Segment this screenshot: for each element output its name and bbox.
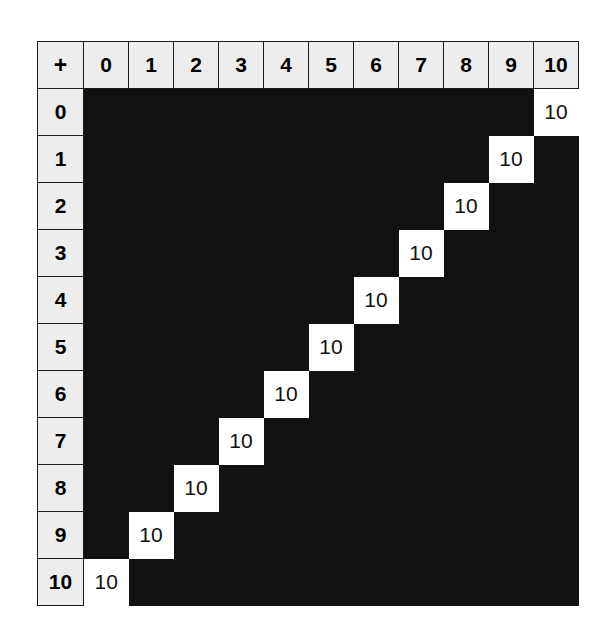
- cell-r0-c1[interactable]: [129, 89, 174, 136]
- cell-r2-c4[interactable]: [264, 183, 309, 230]
- cell-r2-c3[interactable]: [219, 183, 264, 230]
- cell-r9-c9[interactable]: [489, 512, 534, 559]
- cell-r4-c9[interactable]: [489, 277, 534, 324]
- cell-r2-c10[interactable]: [534, 183, 579, 230]
- cell-r7-c3[interactable]: 10: [219, 418, 264, 465]
- cell-r1-c6[interactable]: [354, 136, 399, 183]
- cell-r0-c8[interactable]: [444, 89, 489, 136]
- cell-r9-c10[interactable]: [534, 512, 579, 559]
- cell-r0-c3[interactable]: [219, 89, 264, 136]
- cell-r8-c6[interactable]: [354, 465, 399, 512]
- cell-r10-c4[interactable]: [264, 559, 309, 606]
- cell-r1-c8[interactable]: [444, 136, 489, 183]
- cell-r10-c2[interactable]: [174, 559, 219, 606]
- cell-r6-c7[interactable]: [399, 371, 444, 418]
- cell-r8-c0[interactable]: [84, 465, 129, 512]
- cell-r1-c0[interactable]: [84, 136, 129, 183]
- cell-r9-c3[interactable]: [219, 512, 264, 559]
- cell-r1-c9[interactable]: 10: [489, 136, 534, 183]
- cell-r0-c10[interactable]: 10: [534, 89, 579, 136]
- cell-r10-c7[interactable]: [399, 559, 444, 606]
- cell-r1-c7[interactable]: [399, 136, 444, 183]
- cell-r9-c1[interactable]: 10: [129, 512, 174, 559]
- cell-r1-c4[interactable]: [264, 136, 309, 183]
- cell-r0-c5[interactable]: [309, 89, 354, 136]
- cell-r8-c7[interactable]: [399, 465, 444, 512]
- cell-r10-c9[interactable]: [489, 559, 534, 606]
- cell-r1-c1[interactable]: [129, 136, 174, 183]
- cell-r10-c1[interactable]: [129, 559, 174, 606]
- cell-r8-c8[interactable]: [444, 465, 489, 512]
- cell-r2-c9[interactable]: [489, 183, 534, 230]
- cell-r6-c9[interactable]: [489, 371, 534, 418]
- cell-r7-c5[interactable]: [309, 418, 354, 465]
- cell-r9-c5[interactable]: [309, 512, 354, 559]
- cell-r8-c2[interactable]: 10: [174, 465, 219, 512]
- cell-r6-c6[interactable]: [354, 371, 399, 418]
- cell-r3-c9[interactable]: [489, 230, 534, 277]
- cell-r8-c1[interactable]: [129, 465, 174, 512]
- cell-r3-c10[interactable]: [534, 230, 579, 277]
- cell-r2-c5[interactable]: [309, 183, 354, 230]
- cell-r3-c8[interactable]: [444, 230, 489, 277]
- cell-r7-c4[interactable]: [264, 418, 309, 465]
- cell-r6-c10[interactable]: [534, 371, 579, 418]
- cell-r2-c6[interactable]: [354, 183, 399, 230]
- cell-r8-c9[interactable]: [489, 465, 534, 512]
- cell-r2-c0[interactable]: [84, 183, 129, 230]
- cell-r8-c5[interactable]: [309, 465, 354, 512]
- cell-r10-c6[interactable]: [354, 559, 399, 606]
- cell-r9-c4[interactable]: [264, 512, 309, 559]
- cell-r5-c10[interactable]: [534, 324, 579, 371]
- cell-r5-c6[interactable]: [354, 324, 399, 371]
- cell-r10-c3[interactable]: [219, 559, 264, 606]
- cell-r3-c1[interactable]: [129, 230, 174, 277]
- cell-r3-c5[interactable]: [309, 230, 354, 277]
- cell-r10-c0[interactable]: 10: [84, 559, 129, 606]
- cell-r1-c2[interactable]: [174, 136, 219, 183]
- cell-r5-c0[interactable]: [84, 324, 129, 371]
- cell-r4-c3[interactable]: [219, 277, 264, 324]
- cell-r6-c8[interactable]: [444, 371, 489, 418]
- cell-r10-c5[interactable]: [309, 559, 354, 606]
- cell-r6-c1[interactable]: [129, 371, 174, 418]
- cell-r2-c7[interactable]: [399, 183, 444, 230]
- cell-r3-c3[interactable]: [219, 230, 264, 277]
- cell-r8-c4[interactable]: [264, 465, 309, 512]
- cell-r0-c7[interactable]: [399, 89, 444, 136]
- cell-r9-c0[interactable]: [84, 512, 129, 559]
- cell-r4-c10[interactable]: [534, 277, 579, 324]
- cell-r6-c5[interactable]: [309, 371, 354, 418]
- cell-r4-c0[interactable]: [84, 277, 129, 324]
- cell-r0-c9[interactable]: [489, 89, 534, 136]
- cell-r3-c4[interactable]: [264, 230, 309, 277]
- cell-r4-c2[interactable]: [174, 277, 219, 324]
- cell-r10-c10[interactable]: [534, 559, 579, 606]
- cell-r4-c6[interactable]: 10: [354, 277, 399, 324]
- cell-r0-c6[interactable]: [354, 89, 399, 136]
- cell-r7-c6[interactable]: [354, 418, 399, 465]
- cell-r7-c10[interactable]: [534, 418, 579, 465]
- cell-r6-c2[interactable]: [174, 371, 219, 418]
- cell-r4-c8[interactable]: [444, 277, 489, 324]
- cell-r4-c1[interactable]: [129, 277, 174, 324]
- cell-r4-c7[interactable]: [399, 277, 444, 324]
- cell-r6-c4[interactable]: 10: [264, 371, 309, 418]
- cell-r4-c4[interactable]: [264, 277, 309, 324]
- cell-r7-c7[interactable]: [399, 418, 444, 465]
- cell-r2-c1[interactable]: [129, 183, 174, 230]
- cell-r7-c9[interactable]: [489, 418, 534, 465]
- cell-r7-c2[interactable]: [174, 418, 219, 465]
- cell-r3-c7[interactable]: 10: [399, 230, 444, 277]
- cell-r3-c0[interactable]: [84, 230, 129, 277]
- cell-r1-c5[interactable]: [309, 136, 354, 183]
- cell-r9-c6[interactable]: [354, 512, 399, 559]
- cell-r3-c6[interactable]: [354, 230, 399, 277]
- cell-r0-c4[interactable]: [264, 89, 309, 136]
- cell-r3-c2[interactable]: [174, 230, 219, 277]
- cell-r8-c3[interactable]: [219, 465, 264, 512]
- cell-r9-c7[interactable]: [399, 512, 444, 559]
- cell-r5-c2[interactable]: [174, 324, 219, 371]
- cell-r7-c8[interactable]: [444, 418, 489, 465]
- cell-r5-c9[interactable]: [489, 324, 534, 371]
